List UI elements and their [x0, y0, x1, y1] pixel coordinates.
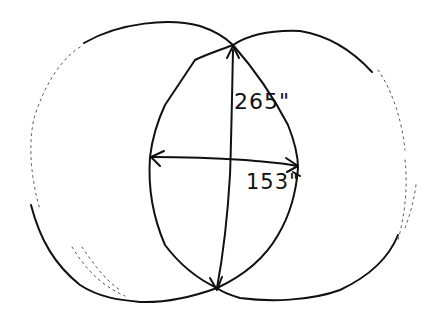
right-circle [217, 31, 416, 300]
width-dimension-label: 153" [246, 172, 300, 193]
diagram-canvas [0, 0, 440, 321]
left-circle [31, 22, 233, 302]
height-dimension-label: 265" [234, 91, 290, 113]
vertical-arrow [210, 46, 239, 290]
